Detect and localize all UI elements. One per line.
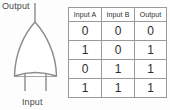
truth-table: Input A Input B Output 0 0 0 1 0 1 0 1 1 [68,7,167,98]
table-row: 1 1 1 [69,79,167,98]
or-gate-symbol-icon [0,0,68,110]
cell-output: 1 [135,60,167,79]
output-label: Output [2,1,30,11]
cell-input-b: 0 [102,41,135,60]
cell-output: 1 [135,41,167,60]
cell-input-b: 0 [102,22,135,41]
table-header-row: Input A Input B Output [69,8,167,22]
column-header-output: Output [135,8,167,22]
table-row: 0 1 1 [69,60,167,79]
column-header-input-b: Input B [102,8,135,22]
or-gate-diagram: Output Input [0,0,68,110]
cell-input-b: 1 [102,60,135,79]
cell-input-a: 0 [69,60,102,79]
cell-input-b: 1 [102,79,135,98]
input-label: Input [22,97,43,107]
table-row: 1 0 1 [69,41,167,60]
table-row: 0 0 0 [69,22,167,41]
cell-output: 0 [135,22,167,41]
column-header-input-a: Input A [69,8,102,22]
logic-gate-truth-table-figure: Output Input Input A Input B Output 0 0 … [0,0,170,110]
cell-input-a: 0 [69,22,102,41]
cell-output: 1 [135,79,167,98]
cell-input-a: 1 [69,41,102,60]
cell-input-a: 1 [69,79,102,98]
